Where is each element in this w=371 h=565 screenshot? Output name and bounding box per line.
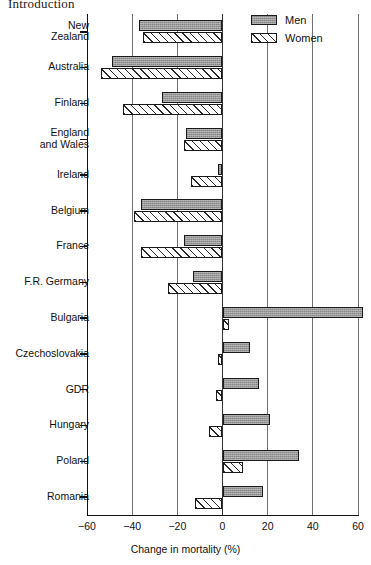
y-axis-label-bulgaria: Bulgaria <box>9 312 89 324</box>
y-axis-label-finland: Finland <box>9 97 89 109</box>
bar-men-finland <box>162 92 223 103</box>
bar-women-france <box>141 247 222 258</box>
x-tick-label--60: −60 <box>67 520 107 532</box>
x-axis-title: Change in mortality (%) <box>0 543 371 555</box>
bar-men-f-r-germany <box>193 271 222 282</box>
bar-women-hungary <box>209 426 223 437</box>
y-axis-label-france: France <box>9 240 89 252</box>
y-axis-label-czechoslovakia: Czechoslovakia <box>9 348 89 360</box>
x-tick-label--20: −20 <box>157 520 197 532</box>
x-tick-label-60: 60 <box>338 520 371 532</box>
bar-women-romania <box>195 498 222 509</box>
gridline-60 <box>358 14 359 515</box>
bar-men-hungary <box>223 414 270 425</box>
legend-label-men: Men <box>285 14 306 26</box>
bar-women-australia <box>101 68 223 79</box>
bar-men-bulgaria <box>223 307 363 318</box>
bar-women-gdr <box>216 390 223 401</box>
bar-men-new-zealand <box>139 20 223 31</box>
bar-men-england-and-wales <box>186 128 222 139</box>
bar-women-poland <box>223 462 243 473</box>
bar-men-belgium <box>141 199 222 210</box>
y-axis-label-romania: Romania <box>9 491 89 503</box>
bar-men-france <box>184 235 222 246</box>
women-swatch-icon <box>251 33 277 43</box>
bar-women-ireland <box>191 176 223 187</box>
y-axis-label-australia: Australia <box>9 61 89 73</box>
x-axis-line <box>87 515 359 516</box>
bar-men-poland <box>223 450 300 461</box>
x-tick-label-20: 20 <box>248 520 288 532</box>
x-tick-label-40: 40 <box>293 520 333 532</box>
y-axis-label-hungary: Hungary <box>9 419 89 431</box>
bar-men-australia <box>112 56 223 67</box>
bar-women-england-and-wales <box>184 140 222 151</box>
x-tick-label-0: 0 <box>203 520 243 532</box>
bar-women-finland <box>123 104 222 115</box>
x-tick-label--40: −40 <box>112 520 152 532</box>
chart-legend: Men Women <box>245 12 357 48</box>
y-axis-label-f-r-germany: F.R. Germany <box>9 276 89 288</box>
gridline--20 <box>177 14 178 515</box>
gridline-40 <box>312 14 313 515</box>
y-axis-label-belgium: Belgium <box>9 205 89 217</box>
y-axis-label-poland: Poland <box>9 455 89 467</box>
bar-women-belgium <box>134 211 222 222</box>
gridline--40 <box>132 14 133 515</box>
bar-women-bulgaria <box>223 319 230 330</box>
gridline-20 <box>267 14 268 515</box>
zero-gridline <box>222 14 223 515</box>
y-axis-label-gdr: GDR <box>9 384 89 396</box>
mortality-change-bar-chart: NewZealandAustraliaFinlandEnglandand Wal… <box>0 0 371 565</box>
bar-men-czechoslovakia <box>223 342 250 353</box>
y-axis-label-ireland: Ireland <box>9 169 89 181</box>
bar-men-ireland <box>218 164 223 175</box>
bar-men-gdr <box>223 378 259 389</box>
y-axis-line <box>87 14 88 515</box>
y-axis-label-england-and-wales: Englandand Wales <box>9 127 89 150</box>
y-axis-label-new-zealand: NewZealand <box>9 20 89 43</box>
bar-women-new-zealand <box>143 32 222 43</box>
bar-women-czechoslovakia <box>218 354 223 365</box>
men-swatch-icon <box>251 15 277 25</box>
legend-label-women: Women <box>285 32 323 44</box>
bar-men-romania <box>223 486 264 497</box>
bar-women-f-r-germany <box>168 283 222 294</box>
